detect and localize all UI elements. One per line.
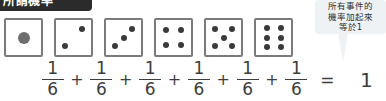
die-pip — [212, 26, 218, 32]
callout-bubble: 所有事件的 機率加起來 等於1 — [315, 0, 386, 34]
die-face-2 — [54, 18, 93, 57]
die-pip — [112, 43, 118, 49]
equation-result: 1 — [347, 68, 386, 92]
fraction-numerator: 1 — [291, 60, 302, 78]
die-pip — [278, 35, 284, 41]
plus-operator: + — [113, 70, 138, 89]
die-pip — [163, 27, 169, 33]
die-pip — [229, 26, 235, 32]
equation-row: 16+16+16+16+16+16=1 — [0, 58, 386, 101]
die-pip — [212, 43, 218, 49]
die-pip — [178, 27, 184, 33]
die-face-4 — [154, 18, 193, 57]
fraction-term: 16 — [285, 60, 308, 98]
callout-tail-icon — [338, 33, 348, 62]
fraction-numerator: 1 — [242, 60, 253, 78]
fraction-term: 16 — [90, 60, 113, 98]
callout-text: 所有事件的 機率加起來 等於1 — [315, 1, 386, 33]
fraction-numerator: 1 — [193, 60, 204, 78]
die-pip — [79, 26, 85, 32]
die-face-3 — [104, 18, 143, 57]
die-pip — [278, 25, 284, 31]
die-pip — [221, 35, 227, 41]
plus-operator: + — [64, 70, 89, 89]
plus-operator: + — [162, 70, 187, 89]
plus-operator: + — [211, 70, 236, 89]
die-pip — [264, 35, 270, 41]
plus-operator: + — [259, 70, 284, 89]
dice-row — [4, 18, 312, 58]
die-pip — [264, 44, 270, 50]
fraction-term: 16 — [138, 60, 161, 98]
die-face-5 — [204, 18, 243, 57]
die-face-1 — [4, 18, 43, 57]
die-pip — [264, 25, 270, 31]
equals-operator: = — [308, 70, 347, 90]
fraction-numerator: 1 — [47, 60, 58, 78]
fraction-denominator: 6 — [291, 80, 302, 98]
die-pip — [278, 44, 284, 50]
die-pip — [62, 43, 68, 49]
probability-dice-figure: 所謂機率 16+16+16+16+16+16=1 所有事件的 機率加起來 等於1 — [0, 0, 386, 101]
fraction-denominator: 6 — [193, 80, 204, 98]
die-pip — [178, 42, 184, 48]
fraction-term: 16 — [236, 60, 259, 98]
die-pip — [18, 32, 30, 44]
fraction-denominator: 6 — [145, 80, 156, 98]
fraction-denominator: 6 — [47, 80, 58, 98]
page-title: 所謂機率 — [0, 0, 92, 11]
fraction-denominator: 6 — [242, 80, 253, 98]
fraction-numerator: 1 — [145, 60, 156, 78]
die-pip — [163, 42, 169, 48]
die-pip — [129, 26, 135, 32]
die-pip — [229, 43, 235, 49]
die-face-6 — [254, 18, 293, 57]
fraction-denominator: 6 — [96, 80, 107, 98]
die-pip — [121, 35, 127, 41]
fraction-numerator: 1 — [96, 60, 107, 78]
fraction-term: 16 — [187, 60, 210, 98]
fraction-term: 16 — [41, 60, 64, 98]
